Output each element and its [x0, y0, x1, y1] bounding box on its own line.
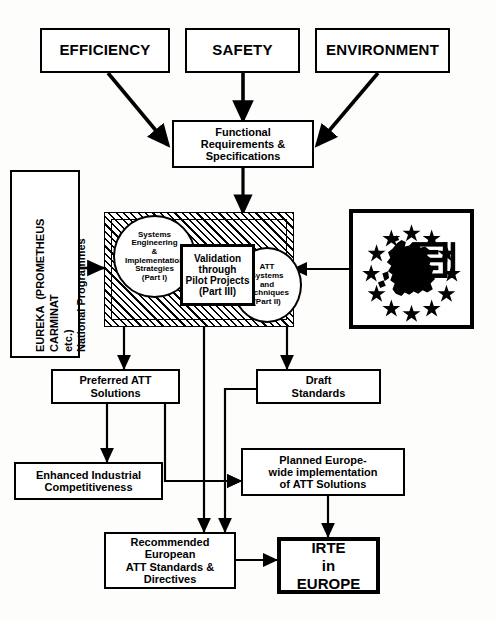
eureka-text-wrap: EUREKA (PROMETHEUS CARMINAT etc.) Nation…	[12, 172, 78, 356]
node-safety[interactable]: SAFETY	[185, 28, 300, 73]
node-enhanced-industrial-competitiveness[interactable]: Enhanced Industrial Competitiveness	[14, 462, 163, 500]
diagram-canvas: EFFICIENCY SAFETY ENVIRONMENT Functional…	[0, 0, 495, 621]
node-irte-in-europe[interactable]: IRTE in EUROPE	[277, 537, 380, 594]
edge-efficiency-functional	[108, 73, 168, 145]
node-functional-requirements[interactable]: Functional Requirements & Specifications	[172, 120, 314, 168]
eureka-label-line1: EUREKA (PROMETHEUS	[34, 219, 47, 352]
edge-environment-functional	[317, 73, 378, 145]
node-recommended-european-att-standards[interactable]: Recommended European ATT Standards & Dir…	[104, 532, 236, 589]
node-eureka-national-programmes[interactable]: EUREKA (PROMETHEUS CARMINAT etc.) Nation…	[10, 170, 80, 358]
node-environment[interactable]: ENVIRONMENT	[315, 28, 450, 73]
node-validation-pilot-projects[interactable]: Validation through Pilot Projects (Part …	[180, 244, 255, 306]
node-draft-standards[interactable]: Draft Standards	[256, 369, 381, 404]
europe-stars-icon	[353, 213, 470, 325]
node-efficiency[interactable]: EFFICIENCY	[40, 28, 170, 73]
node-preferred-att-solutions[interactable]: Preferred ATT Solutions	[51, 369, 180, 404]
eureka-label-line4: National Programmes	[75, 238, 88, 352]
node-planned-europe-wide-implementation[interactable]: Planned Europe- wide implementation of A…	[241, 448, 405, 496]
eureka-label-line2: CARMINAT	[48, 294, 61, 352]
europe-logo-box	[349, 209, 474, 329]
eureka-label-line3: etc.)	[62, 329, 75, 352]
